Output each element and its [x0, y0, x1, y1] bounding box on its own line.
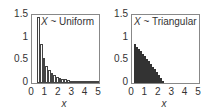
x-tick-label: 2: [153, 87, 163, 97]
chart-title: X ~ Uniform: [41, 16, 94, 27]
y-tick-label: 0: [8, 77, 28, 87]
x-tick-label: 0: [126, 87, 136, 97]
chart-title: X ~ Triangular: [134, 16, 197, 27]
x-tick-label: 1: [39, 87, 49, 97]
x-axis-label: x: [162, 98, 167, 109]
y-tick-label: 1: [8, 32, 28, 42]
y-tick-label: 0.5: [8, 54, 28, 64]
x-tick-label: 2: [53, 87, 63, 97]
x-tick-label: 3: [66, 87, 76, 97]
x-tick-label: 4: [80, 87, 90, 97]
x-tick-label: 0: [26, 87, 36, 97]
y-tick-label: 1.5: [8, 9, 28, 19]
x-tick-label: 1: [139, 87, 149, 97]
x-tick-label: 4: [180, 87, 190, 97]
y-tick-label: 0: [108, 77, 128, 87]
histogram-bar: [162, 81, 164, 83]
y-tick-label: 1: [108, 32, 128, 42]
triangular-panel: X ~ Triangular00.511.5012345x: [100, 0, 204, 112]
x-axis-label: x: [62, 98, 67, 109]
histogram-bar: [96, 81, 99, 83]
x-tick-label: 5: [193, 87, 203, 97]
y-tick-label: 1.5: [108, 9, 128, 19]
uniform-panel: X ~ Uniform00.511.5012345x: [0, 0, 104, 112]
x-tick-label: 3: [166, 87, 176, 97]
y-tick-label: 0.5: [108, 54, 128, 64]
